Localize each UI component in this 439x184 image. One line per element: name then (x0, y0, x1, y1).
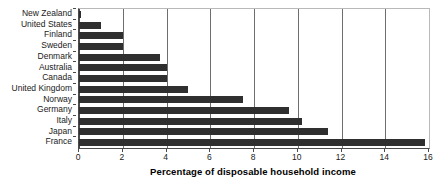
category-label: Australia (39, 63, 72, 72)
category-tick (73, 83, 76, 84)
x-axis-tick-label: 10 (292, 153, 301, 162)
category-label-row: Germany (0, 104, 76, 115)
category-tick (73, 136, 76, 137)
plot-area (78, 8, 430, 149)
category-label-row: Japan (0, 126, 76, 137)
category-tick (73, 61, 76, 62)
x-axis-title: Percentage of disposable household incom… (78, 166, 428, 177)
bar (79, 54, 160, 61)
category-label-row: New Zealand (0, 8, 76, 19)
category-label: Finland (44, 30, 72, 39)
category-label: Sweden (41, 41, 72, 50)
bar-row (79, 127, 429, 138)
category-label-row: Sweden (0, 40, 76, 51)
bar (79, 11, 81, 18)
category-tick (73, 104, 76, 105)
category-label-row: Denmark (0, 51, 76, 62)
bar (79, 107, 289, 114)
category-tick (73, 19, 76, 20)
bar (79, 118, 302, 125)
category-label-row: Italy (0, 115, 76, 126)
x-axis-tick-label: 16 (423, 153, 432, 162)
x-axis-tick-label: 4 (163, 153, 168, 162)
bar-row (79, 20, 429, 31)
bar (79, 32, 123, 39)
bar-row (79, 30, 429, 41)
x-axis-tick-label: 8 (251, 153, 256, 162)
bar (79, 75, 167, 82)
category-label: France (46, 137, 72, 146)
category-tick (73, 72, 76, 73)
bar-row (79, 95, 429, 106)
category-label: Italy (56, 116, 72, 125)
category-label-row: Canada (0, 72, 76, 83)
bar (79, 64, 167, 71)
category-label: New Zealand (22, 9, 72, 18)
bar-row (79, 137, 429, 148)
category-label-row: Norway (0, 94, 76, 105)
bar-row (79, 62, 429, 73)
bar (79, 43, 123, 50)
category-label: Canada (42, 73, 72, 82)
category-label: United Kingdom (12, 84, 72, 93)
category-label: United States (21, 20, 72, 29)
bar-row (79, 84, 429, 95)
bar-chart: New ZealandUnited StatesFinlandSwedenDen… (0, 0, 439, 184)
x-axis-tick-label: 12 (336, 153, 345, 162)
x-axis-tick-label: 14 (380, 153, 389, 162)
x-axis-tick-label: 6 (207, 153, 212, 162)
category-label-row: Australia (0, 61, 76, 72)
bar-row (79, 73, 429, 84)
category-tick (73, 8, 76, 9)
bar (79, 128, 328, 135)
bar-row (79, 52, 429, 63)
bar-row (79, 41, 429, 52)
category-tick (73, 115, 76, 116)
category-label: Germany (37, 105, 72, 114)
category-label-row: France (0, 136, 76, 147)
category-label-row: Finland (0, 29, 76, 40)
bar-row (79, 105, 429, 116)
category-tick (73, 29, 76, 30)
category-label: Japan (49, 127, 72, 136)
category-label-row: United States (0, 19, 76, 30)
x-axis-tick-label: 0 (76, 153, 81, 162)
bar-row (79, 116, 429, 127)
category-tick (73, 51, 76, 52)
category-tick (73, 126, 76, 127)
bar-row (79, 9, 429, 20)
bar (79, 96, 243, 103)
category-tick (73, 40, 76, 41)
category-tick (73, 94, 76, 95)
bar (79, 22, 101, 29)
category-axis: New ZealandUnited StatesFinlandSwedenDen… (0, 8, 76, 147)
category-label-row: United Kingdom (0, 83, 76, 94)
bar (79, 86, 188, 93)
bars-layer (79, 9, 429, 148)
category-label: Norway (43, 95, 72, 104)
category-label: Denmark (38, 52, 72, 61)
bar (79, 139, 425, 146)
x-axis-tick-label: 2 (119, 153, 124, 162)
